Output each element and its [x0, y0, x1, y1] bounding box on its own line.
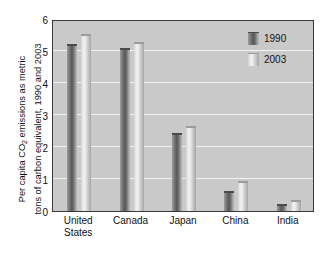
bar-top-cap: [277, 204, 287, 206]
bar-top-cap: [81, 34, 91, 36]
bar-2003-china[interactable]: [238, 182, 248, 211]
bar-2003-japan[interactable]: [186, 127, 196, 211]
bar-swatch-light-icon: [248, 53, 259, 66]
bar-top-cap: [238, 181, 248, 183]
bar-1990-india[interactable]: [277, 205, 287, 211]
bar-group: [67, 21, 91, 211]
x-tick-line-1: Japan: [169, 215, 196, 226]
bar-1990-japan[interactable]: [172, 134, 182, 211]
x-tick-line-1: United: [64, 215, 93, 226]
y-axis-title-line-2: tons of carbon equivalent, 1990 and 2003: [32, 43, 45, 214]
x-tick-line-1: India: [277, 215, 299, 226]
bar-top-cap: [291, 200, 301, 202]
bar-top-cap: [120, 48, 130, 50]
bar-group: [120, 21, 144, 211]
bar-2003-united-states[interactable]: [81, 35, 91, 211]
chart-legend: 19902003: [248, 32, 286, 66]
bar-swatch-dark-icon: [248, 32, 259, 45]
y-axis-tick-label: 6: [26, 15, 48, 26]
y-axis-tick-label: 1: [26, 175, 48, 186]
x-tick-line-1: Canada: [113, 215, 148, 226]
bar-group: [224, 21, 248, 211]
bar-top-cap: [172, 133, 182, 135]
y-axis-tick-label: 3: [26, 111, 48, 122]
bar-top-cap: [224, 191, 234, 193]
y-axis-title-text-b: emissions as metric: [17, 56, 27, 140]
legend-label: 1990: [264, 33, 286, 44]
x-tick-line-2: States: [43, 227, 113, 239]
legend-label: 2003: [264, 54, 286, 65]
bar-1990-united-states[interactable]: [67, 45, 77, 211]
x-tick-line-1: China: [222, 215, 248, 226]
bar-top-cap: [134, 42, 144, 44]
bar-2003-india[interactable]: [291, 201, 301, 211]
bar-chart-figure: Per capita CO2 emissions as metric tons …: [0, 0, 326, 256]
x-axis-tick-label-india: India: [253, 215, 323, 227]
y-axis-tick-label: 4: [26, 79, 48, 90]
bar-group: [172, 21, 196, 211]
bar-top-cap: [186, 126, 196, 128]
bar-1990-china[interactable]: [224, 192, 234, 211]
bar-top-cap: [67, 44, 77, 46]
bar-2003-canada[interactable]: [134, 43, 144, 211]
y-axis-tick-label: 2: [26, 143, 48, 154]
bar-1990-canada[interactable]: [120, 49, 130, 211]
legend-entry-2003[interactable]: 2003: [248, 53, 286, 66]
legend-entry-1990[interactable]: 1990: [248, 32, 286, 45]
y-axis-tick-label: 5: [26, 47, 48, 58]
